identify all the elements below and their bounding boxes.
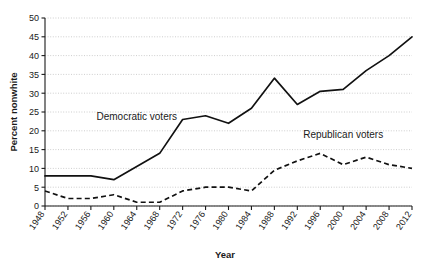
y-tick-labels: 05101520253035404550 <box>29 13 39 211</box>
chart-container: 05101520253035404550 1948195219561960196… <box>0 0 423 273</box>
y-tick-label: 20 <box>29 126 39 136</box>
y-tick-label: 5 <box>34 183 39 193</box>
x-tick-label: 1948 <box>27 209 47 231</box>
x-axis-title: Year <box>215 249 235 260</box>
y-tick-label: 25 <box>29 107 39 117</box>
x-tick-label: 1972 <box>165 209 185 231</box>
x-tick-label: 2000 <box>325 209 345 231</box>
y-tick-label: 45 <box>29 32 39 42</box>
x-tick-label: 2012 <box>394 209 414 231</box>
y-tick-label: 50 <box>29 13 39 23</box>
x-tick-label: 1992 <box>279 209 299 231</box>
series-line-1 <box>45 37 412 180</box>
series-label-1: Democratic voters <box>96 111 177 122</box>
x-tick-label: 1956 <box>73 209 93 231</box>
y-axis <box>42 18 46 206</box>
x-tick-label: 1968 <box>142 209 162 231</box>
x-tick-label: 1984 <box>233 209 253 231</box>
y-tick-label: 30 <box>29 89 39 99</box>
y-tick-label: 10 <box>29 164 39 174</box>
x-tick-label: 1952 <box>50 209 70 231</box>
x-tick-label: 1996 <box>302 209 322 231</box>
x-tick-label: 1980 <box>210 209 230 231</box>
x-tick-label: 1964 <box>119 209 139 231</box>
x-tick-label: 2004 <box>348 209 368 231</box>
y-tick-label: 35 <box>29 70 39 80</box>
y-axis-title: Percent nonwhite <box>8 72 19 151</box>
y-tick-label: 15 <box>29 145 39 155</box>
x-tick-label: 1988 <box>256 209 276 231</box>
x-tick-labels: 1948195219561960196419681972197619801984… <box>27 209 414 231</box>
x-tick-label: 1976 <box>188 209 208 231</box>
x-tick-label: 1960 <box>96 209 116 231</box>
x-tick-label: 2008 <box>371 209 391 231</box>
series-label-2: Republican voters <box>303 129 383 140</box>
line-chart: 05101520253035404550 1948195219561960196… <box>0 0 423 273</box>
y-tick-label: 40 <box>29 51 39 61</box>
x-axis <box>45 206 412 210</box>
